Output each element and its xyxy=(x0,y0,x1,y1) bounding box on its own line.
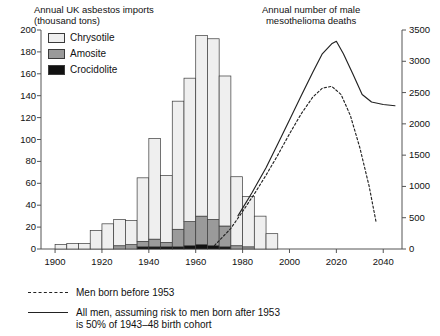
left-tick-label: 200 xyxy=(0,24,36,35)
bar-segment-chrysotile xyxy=(102,224,114,249)
bar-segment-chrysotile xyxy=(254,216,266,249)
bar-segment-chrysotile xyxy=(184,78,196,221)
x-tick-label: 1980 xyxy=(223,256,263,267)
bar-segment-amosite xyxy=(125,245,137,249)
legend-label-chrysotile: Chrysotile xyxy=(70,32,114,43)
bar-segment-amosite xyxy=(196,216,208,244)
bar-segment-chrysotile xyxy=(114,219,126,245)
x-tick-label: 2000 xyxy=(269,256,309,267)
right-tick-label: 500 xyxy=(409,212,440,223)
key-line-dashed xyxy=(28,292,68,293)
bar-segment-amosite xyxy=(231,246,243,249)
x-tick-label: 1960 xyxy=(176,256,216,267)
plot-area xyxy=(0,0,440,336)
bar-segment-crocidolite xyxy=(207,246,219,249)
bar-segment-chrysotile xyxy=(266,234,278,249)
bar-segment-chrysotile xyxy=(137,178,149,242)
bar-segment-chrysotile xyxy=(67,244,79,249)
key-label-dashed: Men born before 1953 xyxy=(76,287,174,299)
bar-segment-amosite xyxy=(219,226,231,247)
right-tick-label: 3500 xyxy=(409,24,440,35)
legend-swatch-amosite xyxy=(48,49,65,59)
x-tick-label: 1900 xyxy=(35,256,75,267)
bar-segment-amosite xyxy=(161,242,173,246)
bar-segment-chrysotile xyxy=(161,176,173,243)
bar-segment-chrysotile xyxy=(125,221,137,245)
key-label-solid: All men, assuming risk to men born after… xyxy=(76,307,280,330)
left-tick-label: 60 xyxy=(0,177,36,188)
bar-segment-chrysotile xyxy=(90,230,102,249)
left-tick-label: 0 xyxy=(0,243,36,254)
left-tick-label: 140 xyxy=(0,90,36,101)
bar-segment-amosite xyxy=(184,222,196,246)
legend-swatch-crocidolite xyxy=(48,65,65,75)
bar-segment-chrysotile xyxy=(219,76,231,226)
right-tick-label: 2000 xyxy=(409,118,440,129)
legend-label-amosite: Amosite xyxy=(70,48,106,59)
left-tick-label: 20 xyxy=(0,221,36,232)
right-tick-label: 1500 xyxy=(409,149,440,160)
bar-segment-amosite xyxy=(137,241,149,246)
left-tick-label: 180 xyxy=(0,46,36,57)
curve-all-men xyxy=(238,41,395,216)
x-tick-label: 1920 xyxy=(82,256,122,267)
legend-swatch-chrysotile xyxy=(48,33,65,43)
key-line-solid xyxy=(28,312,68,313)
bar-segment-chrysotile xyxy=(196,35,208,216)
bar-segment-amosite xyxy=(172,229,184,247)
bar-segment-chrysotile xyxy=(243,196,255,246)
bar-segment-amosite xyxy=(149,239,161,247)
right-tick-label: 0 xyxy=(409,243,440,254)
bar-segment-chrysotile xyxy=(207,39,219,220)
left-tick-label: 100 xyxy=(0,134,36,145)
left-tick-label: 40 xyxy=(0,199,36,210)
bar-segment-amosite xyxy=(114,246,126,249)
right-tick-label: 2500 xyxy=(409,87,440,98)
legend-label-crocidolite: Crocidolite xyxy=(70,64,117,75)
bar-segment-chrysotile xyxy=(172,101,184,229)
left-tick-label: 120 xyxy=(0,112,36,123)
left-tick-label: 160 xyxy=(0,68,36,79)
bar-segment-chrysotile xyxy=(55,245,67,249)
bar-segment-crocidolite xyxy=(196,245,208,249)
right-tick-label: 1000 xyxy=(409,180,440,191)
left-tick-label: 80 xyxy=(0,155,36,166)
chart-figure: Annual UK asbestos imports (thousand ton… xyxy=(0,0,440,336)
x-tick-label: 2040 xyxy=(363,256,403,267)
x-tick-label: 1940 xyxy=(129,256,169,267)
bar-segment-chrysotile xyxy=(149,138,161,239)
bar-segment-chrysotile xyxy=(79,244,91,249)
right-tick-label: 3000 xyxy=(409,55,440,66)
x-tick-label: 2020 xyxy=(316,256,356,267)
bar-segment-crocidolite xyxy=(184,246,196,249)
